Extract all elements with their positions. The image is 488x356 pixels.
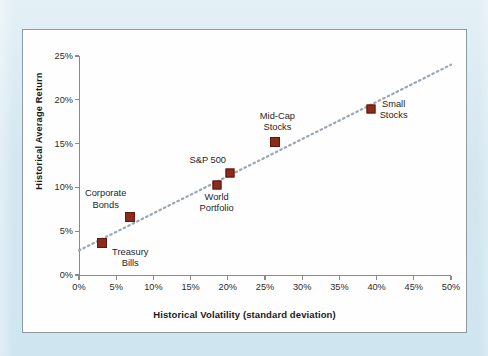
y-tick: [75, 99, 79, 100]
y-tick-label: 15%: [23, 139, 73, 149]
y-tick-label: 20%: [23, 95, 73, 105]
x-tick: [153, 276, 154, 280]
y-tick-label: 10%: [23, 182, 73, 192]
x-tick-label: 15%: [181, 282, 199, 292]
plot-area: Historical Average Return Historical Vol…: [23, 30, 466, 332]
x-tick: [116, 276, 117, 280]
point-label: Mid-CapStocks: [260, 111, 295, 134]
data-point[interactable]: [366, 105, 375, 114]
data-point[interactable]: [97, 238, 107, 248]
point-label-line: World: [200, 192, 234, 203]
point-label-line: Portfolio: [200, 203, 234, 214]
point-label-line: Bonds: [85, 200, 126, 211]
y-tick-label: 25%: [23, 51, 73, 61]
y-axis-line: [79, 56, 80, 276]
x-tick-label: 25%: [256, 282, 274, 292]
point-label: SmallStocks: [380, 99, 408, 122]
point-label: CorporateBonds: [85, 188, 126, 211]
x-tick-label: 45%: [405, 282, 423, 292]
x-tick: [78, 276, 79, 280]
data-point[interactable]: [226, 168, 235, 177]
point-label-line: Treasury: [112, 247, 148, 258]
y-tick-label: 0%: [23, 270, 73, 280]
point-label-line: S&P 500: [190, 155, 227, 166]
point-label-line: Stocks: [260, 122, 295, 133]
point-label: TreasuryBills: [112, 247, 148, 270]
y-tick: [75, 55, 79, 56]
data-point[interactable]: [125, 212, 135, 222]
x-tick-label: 50%: [442, 282, 460, 292]
chart-panel: Historical Average Return Historical Vol…: [22, 29, 467, 333]
x-tick-label: 5%: [110, 282, 123, 292]
x-tick-label: 35%: [330, 282, 348, 292]
x-axis-title: Historical Volatility (standard deviatio…: [23, 309, 466, 320]
data-point[interactable]: [270, 137, 280, 147]
figure-root: Historical Average Return Historical Vol…: [0, 0, 488, 356]
y-axis-title: Historical Average Return: [34, 41, 44, 221]
y-tick: [75, 143, 79, 144]
x-tick-label: 40%: [367, 282, 385, 292]
point-label-line: Mid-Cap: [260, 111, 295, 122]
y-tick: [75, 231, 79, 232]
x-tick-label: 10%: [144, 282, 162, 292]
point-label-line: Stocks: [380, 110, 408, 121]
data-point[interactable]: [212, 180, 221, 189]
point-label: WorldPortfolio: [200, 192, 234, 215]
x-tick: [450, 276, 451, 280]
y-tick: [75, 187, 79, 188]
x-tick: [190, 276, 191, 280]
y-tick-label: 5%: [23, 226, 73, 236]
trendline: [23, 30, 466, 332]
x-tick-label: 30%: [293, 282, 311, 292]
point-label: S&P 500: [190, 155, 227, 166]
point-label-line: Bills: [112, 258, 148, 269]
point-label-line: Small: [380, 99, 408, 110]
x-tick: [339, 276, 340, 280]
point-label-line: Corporate: [85, 188, 126, 199]
x-tick: [413, 276, 414, 280]
x-tick: [227, 276, 228, 280]
x-tick: [302, 276, 303, 280]
x-tick-label: 0%: [72, 282, 85, 292]
x-tick-label: 20%: [219, 282, 237, 292]
x-tick: [376, 276, 377, 280]
x-tick: [264, 276, 265, 280]
